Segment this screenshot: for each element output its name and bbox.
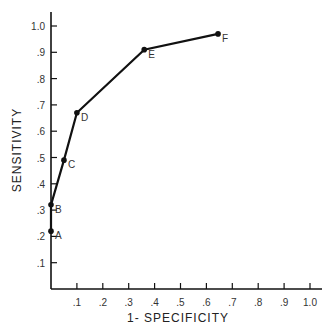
point-label-a: A xyxy=(55,230,62,241)
y-tick-label: .3 xyxy=(37,205,46,216)
x-tick-label: .5 xyxy=(176,297,185,308)
y-tick-label: .5 xyxy=(37,153,46,164)
point-label-f: F xyxy=(222,33,228,44)
y-tick-label: .6 xyxy=(37,126,46,137)
point-label-d: D xyxy=(81,112,88,123)
y-tick-label: .4 xyxy=(37,179,46,190)
y-tick-label: .7 xyxy=(37,100,46,111)
x-tick-label: .8 xyxy=(254,297,263,308)
data-point-e xyxy=(141,47,147,53)
x-tick-label: .7 xyxy=(228,297,237,308)
point-label-c: C xyxy=(68,159,75,170)
x-tick-label: .3 xyxy=(125,297,134,308)
y-tick-label: .1 xyxy=(37,258,46,269)
y-tick-label: .2 xyxy=(37,231,46,242)
point-label-e: E xyxy=(148,49,155,60)
data-point-c xyxy=(61,157,67,163)
roc-curve-line xyxy=(51,34,218,231)
x-axis-label: 1- SPECIFICITY xyxy=(127,311,229,325)
x-tick-label: .4 xyxy=(150,297,159,308)
x-tick-label: .1 xyxy=(73,297,82,308)
data-points: ABCDEF xyxy=(48,31,228,241)
data-point-d xyxy=(74,110,80,116)
y-tick-label: .8 xyxy=(37,74,46,85)
y-axis-label: SENSITIVITY xyxy=(10,108,24,192)
x-tick-label: .6 xyxy=(202,297,211,308)
x-tick-label: .9 xyxy=(280,297,289,308)
data-point-b xyxy=(48,202,54,208)
y-tick-label: 1.0 xyxy=(31,21,45,32)
axes xyxy=(51,12,322,289)
x-tick-label: .2 xyxy=(99,297,108,308)
data-point-f xyxy=(215,31,221,37)
y-tick-label: .9 xyxy=(37,47,46,58)
data-point-a xyxy=(48,228,54,234)
x-tick-label: 1.0 xyxy=(303,297,317,308)
point-label-b: B xyxy=(55,204,62,215)
x-axis-ticks: .1.2.3.4.5.6.7.8.91.0 xyxy=(73,283,318,308)
roc-chart: .1.2.3.4.5.6.7.8.91.0 .1.2.3.4.5.6.7.8.9… xyxy=(0,0,334,330)
